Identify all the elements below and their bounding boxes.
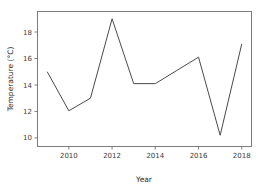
y-tick-label: 14 <box>23 82 32 90</box>
x-tick-label: 2010 <box>60 152 78 160</box>
chart-figure: 1012141618 20102012201420162018 Year Tem… <box>0 0 272 188</box>
x-tick-label: 2014 <box>146 152 164 160</box>
x-tick-label: 2016 <box>190 152 208 160</box>
line-chart: 1012141618 20102012201420162018 Year Tem… <box>0 0 272 188</box>
x-axis-title: Year <box>135 175 153 184</box>
x-tick-label: 2012 <box>103 152 121 160</box>
y-tick-label: 16 <box>23 55 32 63</box>
y-tick-label: 12 <box>23 108 32 116</box>
x-tick-label: 2018 <box>233 152 251 160</box>
y-tick-label: 18 <box>23 29 32 37</box>
y-tick-label: 10 <box>23 134 32 142</box>
y-axis-title: Temperature (°C) <box>6 47 15 113</box>
figure-background <box>0 0 272 188</box>
